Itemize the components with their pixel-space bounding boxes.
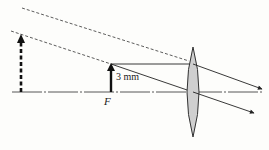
virtual-image-arrow-head bbox=[17, 34, 25, 43]
dashed-ray-upper bbox=[22, 8, 189, 61]
dashed-ray-lower bbox=[11, 31, 111, 64]
central-ray-outgoing bbox=[193, 92, 254, 113]
object-height-label: 3 mm bbox=[116, 71, 139, 82]
focal-point-label: F bbox=[104, 95, 111, 107]
refracted-ray-upper bbox=[193, 64, 262, 89]
